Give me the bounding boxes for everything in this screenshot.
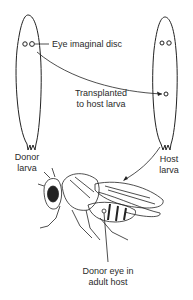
host-larva	[153, 17, 178, 150]
transplanted-label-line2: to host larva	[70, 99, 132, 109]
host-larva-label-line1: Host	[152, 154, 186, 164]
donor-larva-label-line2: larva	[10, 163, 44, 173]
donor-larva-label-line1: Donor	[10, 152, 44, 162]
donor-larva	[16, 15, 41, 150]
host-larva-label-line2: larva	[152, 165, 186, 175]
donor-eye-label-line1: Donor eye in	[68, 266, 148, 276]
donor-eye-pointer	[104, 213, 108, 262]
donor-eye-label-line2: adult host	[68, 277, 148, 287]
transplanted-label-line1: Transplanted	[70, 88, 132, 98]
adult-fly	[38, 168, 163, 240]
eye-imaginal-disc-label: Eye imaginal disc	[52, 39, 122, 49]
